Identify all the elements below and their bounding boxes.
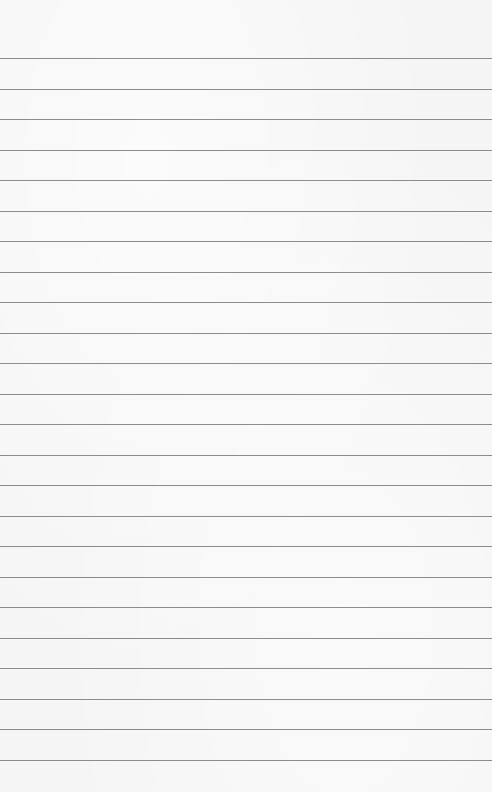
ruled-line [0,241,492,242]
ruled-line [0,760,492,761]
ruled-line [0,272,492,273]
ruled-line [0,516,492,517]
ruled-line [0,455,492,456]
ruled-line [0,577,492,578]
ruled-line [0,119,492,120]
ruled-line [0,180,492,181]
ruled-line [0,699,492,700]
ruled-line [0,424,492,425]
ruled-line [0,668,492,669]
ruled-line [0,363,492,364]
ruled-line [0,89,492,90]
lined-paper [0,0,492,792]
ruled-line [0,58,492,59]
ruled-line [0,333,492,334]
ruled-line [0,638,492,639]
ruled-line [0,302,492,303]
ruled-line [0,211,492,212]
ruled-line [0,485,492,486]
ruled-line [0,607,492,608]
ruled-line [0,546,492,547]
ruled-line [0,729,492,730]
ruled-line [0,150,492,151]
ruled-line [0,394,492,395]
